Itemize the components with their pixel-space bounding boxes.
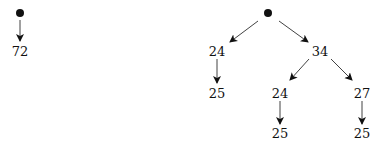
node-24-mid: 24 [272,87,289,100]
edge-34-27 [331,59,352,80]
edge-34-24 [290,59,309,80]
edge-root-24 [230,21,258,42]
left-root-dot [16,9,24,17]
edge-root-34 [279,21,308,42]
node-25-a: 25 [209,87,226,100]
right-root-dot [264,9,272,17]
node-24-left: 24 [209,45,226,58]
tree-diagram-canvas [0,0,383,146]
node-72: 72 [12,45,29,58]
node-34: 34 [312,45,329,58]
node-25-c: 25 [354,127,371,140]
node-25-b: 25 [272,127,289,140]
node-27: 27 [354,87,371,100]
